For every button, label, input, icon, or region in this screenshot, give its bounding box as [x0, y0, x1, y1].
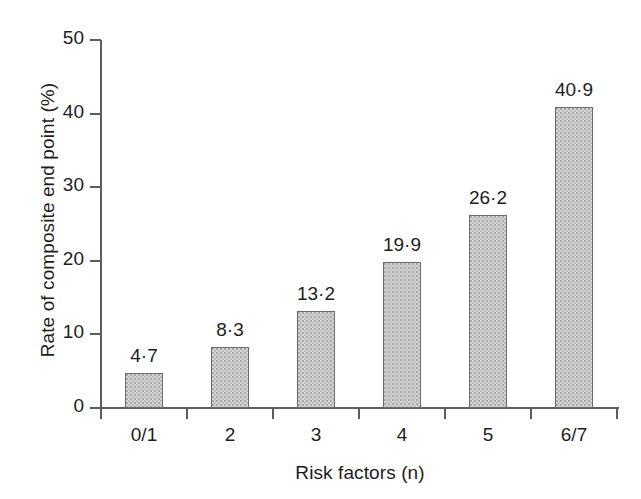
x-axis-tick-mark	[530, 408, 532, 419]
bar-value-label: 19·9	[347, 234, 457, 256]
x-axis-tick-label: 6/7	[531, 424, 617, 446]
bar-value-label: 26·2	[433, 187, 543, 209]
y-axis-tick-label: 50	[20, 27, 84, 49]
bar	[125, 373, 163, 408]
y-axis-tick-mark	[90, 39, 101, 41]
y-axis-tick-mark	[90, 113, 101, 115]
x-axis-tick-mark	[100, 408, 102, 419]
bar-value-label: 40·9	[519, 79, 629, 101]
x-axis-tick-label: 5	[445, 424, 531, 446]
x-axis-tick-mark	[616, 408, 618, 419]
bar	[297, 311, 335, 408]
bar-value-label: 4·7	[89, 345, 199, 367]
x-axis-tick-mark	[358, 408, 360, 419]
x-axis-tick-mark	[186, 408, 188, 419]
bar	[211, 347, 249, 408]
bar-value-label: 13·2	[261, 283, 371, 305]
y-axis-tick-mark	[90, 186, 101, 188]
x-axis-tick-label: 3	[273, 424, 359, 446]
y-axis-tick-mark	[90, 333, 101, 335]
x-axis-tick-label: 0/1	[101, 424, 187, 446]
bar	[469, 215, 507, 408]
x-axis-label: Risk factors (n)	[101, 462, 619, 484]
y-axis-tick-label: 0	[20, 395, 84, 417]
x-axis-tick-mark	[444, 408, 446, 419]
bar	[555, 107, 593, 408]
x-axis-tick-label: 4	[359, 424, 445, 446]
x-axis-tick-label: 2	[187, 424, 273, 446]
y-axis-tick-label: 30	[20, 174, 84, 196]
y-axis-label: Rate of composite end point (%)	[37, 30, 59, 410]
bar	[383, 262, 421, 408]
x-axis-tick-mark	[272, 408, 274, 419]
y-axis-tick-mark	[90, 260, 101, 262]
y-axis-tick-label: 10	[20, 321, 84, 343]
bar-chart-figure: Rate of composite end point (%) 01020304…	[0, 0, 641, 499]
bar-value-label: 8·3	[175, 319, 285, 341]
y-axis-tick-label: 20	[20, 248, 84, 270]
y-axis-tick-label: 40	[20, 101, 84, 123]
